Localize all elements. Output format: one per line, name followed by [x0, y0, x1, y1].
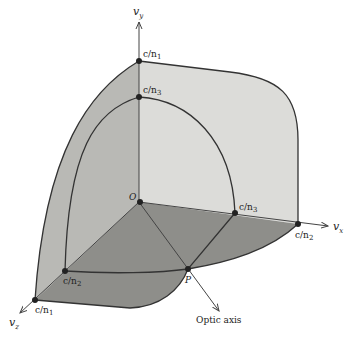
label-top-outer: c/n1 [143, 49, 161, 61]
label-front-outer: c/n1 [35, 305, 53, 317]
label-optic-axis: Optic axis [196, 315, 242, 325]
label-vy: vy [133, 5, 144, 20]
label-vz: vz [9, 316, 19, 331]
point-front-inner [62, 268, 68, 274]
wave-surface-diagram: vy vx vz c/n1 c/n3 O c/n3 c/n2 c/n2 c/n1… [0, 0, 354, 337]
label-p: P [184, 275, 192, 285]
point-p [185, 266, 191, 272]
label-right-outer: c/n2 [295, 230, 313, 242]
point-top-inner [136, 94, 142, 100]
point-right-outer [295, 221, 301, 227]
label-origin: O [129, 192, 137, 202]
label-vx: vx [333, 220, 343, 235]
point-right-inner [232, 210, 238, 216]
point-origin [137, 199, 143, 205]
point-front-outer [32, 297, 38, 303]
point-top-outer [136, 58, 142, 64]
